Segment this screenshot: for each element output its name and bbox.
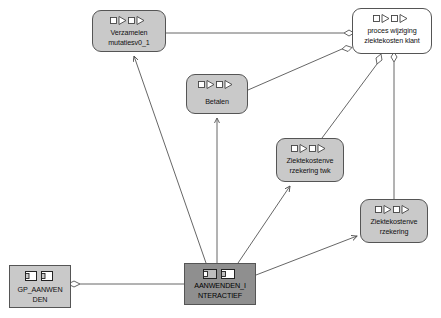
edge-verzamelen-to-proces: [166, 30, 354, 36]
node-label: AANWENDEN_I NTERACTIEF: [192, 281, 248, 300]
node-label-line: rzekering: [371, 227, 418, 237]
edge-ziektekosten-to-proces: [391, 52, 397, 199]
node-verzamelen-mutaties[interactable]: Verzamelen mutatiesv0_1: [92, 10, 166, 52]
node-label-line: GP_AANWEN: [17, 285, 62, 295]
node-label-line: ziektekosten klant: [364, 36, 419, 46]
node-label: Verzamelen mutatiesv0_1: [106, 28, 152, 47]
node-label: proces wijziging ziektekosten klant: [362, 26, 421, 45]
node-label-line: NTERACTIEF: [194, 291, 246, 301]
node-label: GP_AANWEN DEN: [15, 285, 64, 304]
edge-betalen-to-proces: [248, 46, 352, 91]
node-proces-wijziging[interactable]: proces wijziging ziektekosten klant: [352, 8, 432, 54]
node-ziektekostenverzekering-twk[interactable]: Ziektekostenve rzekering twk: [276, 138, 344, 182]
node-betalen[interactable]: Betalen: [186, 74, 248, 114]
component-pair-icon: [203, 268, 237, 279]
node-label: Ziektekostenve rzekering: [369, 217, 420, 236]
edge-aanwenden-to-gp-aanwenden: [68, 281, 184, 287]
node-label-line: mutatiesv0_1: [108, 38, 150, 48]
node-label: Ziektekostenve rzekering twk: [285, 156, 336, 175]
node-label-line: Ziektekostenve: [287, 156, 334, 166]
process-sequence-icon: [198, 79, 236, 90]
node-label-line: AANWENDEN_I: [194, 281, 246, 291]
process-sequence-icon: [373, 13, 411, 24]
process-sequence-icon: [110, 15, 148, 26]
edge-aanwenden-to-ziektekosten-twk: [236, 186, 290, 266]
node-label: Betalen: [203, 97, 231, 107]
process-sequence-icon: [375, 204, 413, 215]
process-sequence-icon: [291, 143, 329, 154]
node-label-line: DEN: [17, 295, 62, 305]
node-ziektekostenverzekering[interactable]: Ziektekostenve rzekering: [360, 199, 428, 243]
diagram-canvas: Verzamelen mutatiesv0_1 proces wijziging…: [0, 0, 441, 318]
node-aanwenden-interactief[interactable]: AANWENDEN_I NTERACTIEF: [184, 263, 256, 305]
node-label-line: Verzamelen: [108, 28, 150, 38]
edge-aanwenden-to-ziektekosten: [256, 236, 357, 275]
node-gp-aanwenden[interactable]: GP_AANWEN DEN: [9, 265, 71, 308]
node-label-line: Betalen: [205, 97, 229, 107]
node-label-line: Ziektekostenve: [371, 217, 418, 227]
component-pair-icon: [25, 270, 55, 281]
node-label-line: proces wijziging: [364, 26, 419, 36]
node-label-line: rzekering twk: [287, 166, 334, 176]
edge-ziektekosten-twk-to-proces: [322, 54, 382, 138]
